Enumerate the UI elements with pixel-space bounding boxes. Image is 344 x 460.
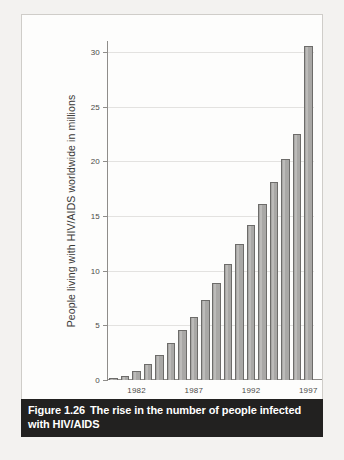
y-axis-tick bbox=[103, 216, 108, 217]
y-axis-tick-label: 0 bbox=[95, 376, 100, 385]
bar bbox=[155, 355, 163, 380]
y-axis-tick bbox=[103, 325, 108, 326]
page-root: People living with HIV/AIDS worldwide in… bbox=[0, 0, 344, 460]
x-axis-tick-label: 1992 bbox=[242, 386, 261, 395]
bar bbox=[270, 182, 278, 380]
bar bbox=[281, 159, 289, 380]
figure-caption: Figure 1.26The rise in the number of peo… bbox=[28, 404, 316, 431]
bar bbox=[178, 330, 186, 380]
bar bbox=[224, 264, 232, 380]
y-axis-tick bbox=[103, 271, 108, 272]
y-axis-title-label: People living with HIV/AIDS worldwide in… bbox=[65, 94, 77, 327]
y-axis-tick-label: 10 bbox=[91, 266, 100, 275]
bar bbox=[258, 204, 266, 380]
bar bbox=[167, 343, 175, 380]
bar bbox=[247, 225, 255, 380]
y-axis-tick-label: 15 bbox=[91, 211, 100, 220]
y-axis-tick-label: 30 bbox=[91, 47, 100, 56]
bar bbox=[304, 46, 312, 380]
x-axis-tick-label: 1982 bbox=[127, 386, 146, 395]
y-axis-tick bbox=[103, 52, 108, 53]
figure-number: Figure 1.26 bbox=[28, 404, 85, 416]
bar bbox=[132, 371, 140, 380]
bar bbox=[235, 244, 243, 380]
figure-caption-bar: Figure 1.26The rise in the number of peo… bbox=[21, 399, 323, 437]
x-axis-tick-label: 1997 bbox=[299, 386, 318, 395]
x-axis-tick-labels: 1982198719921997 bbox=[108, 380, 314, 400]
y-axis-tick-label: 25 bbox=[91, 102, 100, 111]
y-axis-title: People living with HIV/AIDS worldwide in… bbox=[63, 41, 79, 380]
y-axis-tick bbox=[103, 161, 108, 162]
x-axis-tick-label: 1987 bbox=[185, 386, 204, 395]
y-axis-tick-label: 5 bbox=[95, 321, 100, 330]
bar bbox=[212, 283, 220, 380]
y-axis-tick bbox=[103, 380, 108, 381]
bar bbox=[201, 300, 209, 380]
bar bbox=[144, 364, 152, 380]
y-axis-tick-label: 20 bbox=[91, 157, 100, 166]
bars-group bbox=[108, 41, 314, 380]
figure-panel: People living with HIV/AIDS worldwide in… bbox=[21, 14, 323, 414]
bar bbox=[293, 134, 301, 380]
y-axis-tick bbox=[103, 107, 108, 108]
bar-chart-plot-area: 1982198719921997 051015202530 bbox=[108, 41, 314, 380]
bar bbox=[190, 317, 198, 380]
